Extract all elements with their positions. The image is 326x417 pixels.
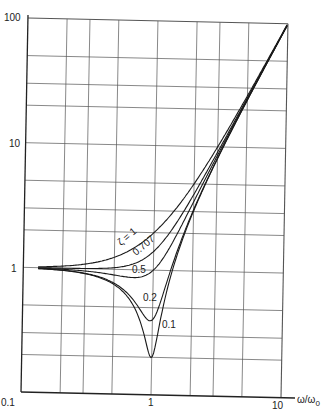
y-tick-10: 10 [9,138,21,149]
x-tick-1: 1 [148,397,154,408]
x-axis-label: ω/ω0 [297,394,320,408]
gridline-vertical [242,23,249,397]
grid [22,18,288,398]
gridline-vertical [112,20,119,394]
gridline-vertical [83,19,90,393]
axes [21,15,295,398]
bode-magnitude-chart: 100 10 1 0.1 1 10 ω/ω0 ζ = 1 0.707 0.5 0… [0,0,326,417]
curve--0-2 [38,26,287,321]
x-axis-label-subscript: 0 [315,399,320,408]
x-tick-10: 10 [272,400,284,411]
curve--0-707 [38,25,287,268]
x-tick-0-1: 0.1 [1,397,15,408]
x-axis [21,392,295,398]
curve--0-1 [38,26,287,358]
gridline-vertical [213,22,220,396]
curves [38,25,287,358]
curve-label-zeta-02: 0.2 [143,292,157,303]
curve--0-5 [38,26,287,278]
curve-label-zeta-05: 0.5 [132,264,146,275]
curve-label-zeta-01: 0.1 [162,319,176,330]
gridline-vertical [281,24,288,398]
y-tick-100: 100 [4,12,21,23]
y-tick-1: 1 [11,263,17,274]
gridline-vertical [60,19,67,393]
y-axis [21,15,28,392]
x-axis-label-main: ω/ω [297,394,316,405]
